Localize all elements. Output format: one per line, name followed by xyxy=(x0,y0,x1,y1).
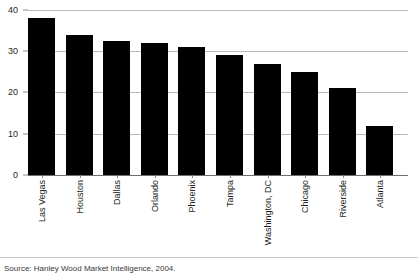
x-tick-mark xyxy=(117,175,118,178)
x-axis-label: Washington, DC xyxy=(254,178,281,252)
bar xyxy=(216,55,243,175)
x-axis-label: Phoenix xyxy=(178,178,205,252)
x-axis-labels: Las VegasHoustonDallasOrlandoPhoenixTamp… xyxy=(28,178,408,252)
y-tick-label-30: 30 xyxy=(8,47,18,56)
x-axis-label-text: Orlando xyxy=(150,180,159,212)
source-note: Source: Hanley Wood Market Intelligence,… xyxy=(4,264,176,274)
bar xyxy=(291,72,318,175)
x-axis-label: Las Vegas xyxy=(28,178,55,252)
bar xyxy=(178,47,205,175)
bar xyxy=(103,41,130,175)
footer-divider xyxy=(0,257,418,258)
axis-baseline xyxy=(28,175,408,176)
x-axis-label: Tampa xyxy=(216,178,243,252)
x-tick-mark xyxy=(230,175,231,178)
y-tick-label-20: 20 xyxy=(8,88,18,97)
x-axis-label: Riverside xyxy=(329,178,356,252)
y-tick-label-0: 0 xyxy=(13,171,18,180)
x-axis-label: Chicago xyxy=(291,178,318,252)
x-axis-label-text: Phoenix xyxy=(187,180,196,213)
bar xyxy=(366,126,393,176)
y-axis: 40 30 20 10 0 xyxy=(0,0,28,176)
x-tick-mark xyxy=(155,175,156,178)
x-axis-label: Dallas xyxy=(103,178,130,252)
y-tick-label-40: 40 xyxy=(8,6,18,15)
x-tick-mark xyxy=(305,175,306,178)
x-tick-mark xyxy=(380,175,381,178)
x-axis-label: Houston xyxy=(66,178,93,252)
x-axis-label: Orlando xyxy=(141,178,168,252)
x-axis-label-text: Washington, DC xyxy=(263,180,272,245)
x-tick-mark xyxy=(192,175,193,178)
y-tick-label-10: 10 xyxy=(8,130,18,139)
bar xyxy=(66,35,93,175)
x-axis-label-text: Riverside xyxy=(338,180,347,218)
x-axis-label-text: Chicago xyxy=(300,180,309,213)
bar xyxy=(28,18,55,175)
x-axis-label: Atlanta xyxy=(366,178,393,252)
x-axis-label-text: Las Vegas xyxy=(37,180,46,222)
bars-container xyxy=(28,10,408,175)
x-tick-mark xyxy=(80,175,81,178)
x-axis-label-text: Dallas xyxy=(112,180,121,205)
bar xyxy=(329,88,356,175)
x-axis-label-text: Tampa xyxy=(225,180,234,207)
x-axis-label-text: Atlanta xyxy=(375,180,384,208)
x-axis-label-text: Houston xyxy=(75,180,84,214)
x-tick-mark xyxy=(268,175,269,178)
x-tick-mark xyxy=(42,175,43,178)
x-tick-mark xyxy=(343,175,344,178)
bar-chart: 40 30 20 10 0 Las VegasHoustonDallasOrla… xyxy=(0,0,418,279)
bar xyxy=(141,43,168,175)
bar xyxy=(254,64,281,175)
